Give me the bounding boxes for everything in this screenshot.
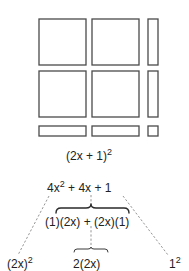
caption-base: (2x + 1) <box>66 149 107 163</box>
leaf-middle: 2(2x) <box>73 258 100 270</box>
leaf-right-base: 1 <box>169 257 176 271</box>
tile-wide-strip <box>92 126 139 136</box>
area-model-tiles <box>39 19 158 136</box>
tile-wide-strip <box>39 126 86 136</box>
tile-tall-strip <box>148 71 158 117</box>
caption-exponent: 2 <box>107 147 112 157</box>
leaf-right-exponent: 2 <box>176 255 181 265</box>
tile-large-square <box>92 71 139 117</box>
tile-large-square <box>92 19 139 65</box>
curly-brace-small <box>74 247 108 252</box>
tile-large-square <box>39 19 86 65</box>
trinomial-expression: 4x2 + 4x + 1 <box>47 182 111 194</box>
binomial-square-diagram <box>0 0 189 271</box>
leaf-right: 12 <box>169 258 181 270</box>
leaf-left-base: (2x) <box>7 257 28 271</box>
leaf-left-exponent: 2 <box>28 255 33 265</box>
tile-unit-square <box>148 126 158 136</box>
tile-large-square <box>39 71 86 117</box>
curly-brace-large <box>56 204 129 213</box>
trinomial-rest: + 4x + 1 <box>65 181 112 195</box>
connector-right <box>123 196 168 255</box>
caption-binomial-squared: (2x + 1)2 <box>66 150 112 162</box>
trinomial-term1-exponent: 2 <box>60 179 65 189</box>
middle-products: (1)(2x) + (2x)(1) <box>45 216 129 228</box>
leaf-left: (2x)2 <box>7 258 33 270</box>
tile-tall-strip <box>148 19 158 65</box>
trinomial-term1: 4x <box>47 181 60 195</box>
